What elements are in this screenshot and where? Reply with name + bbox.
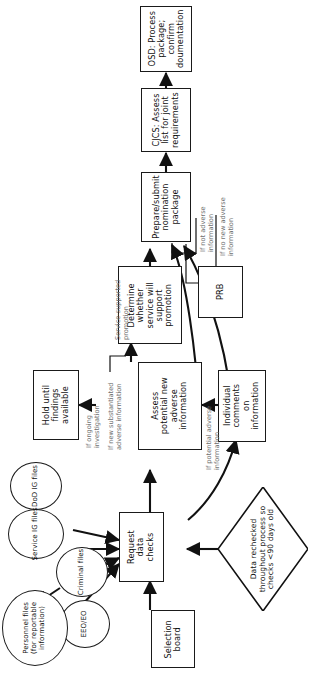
node-label: DoD IG files (32, 465, 40, 507)
node-osd-process-package[interactable]: OSD: Process package; confirm doumentati… (140, 6, 192, 72)
edge-label-if-ongoing-investigation: If ongoing investigation (86, 388, 101, 448)
edge-label-if-no-new-adverse: If no new adverse information (220, 172, 235, 256)
edge-label-if-new-substantiated: If new substantiated adverse information (108, 366, 123, 450)
node-label: Determine whether service will support p… (127, 274, 174, 336)
node-label: Service IG files (32, 507, 40, 560)
node-label: Data rechecked throughout process so che… (250, 504, 276, 594)
node-label: Individual comments on information (223, 382, 260, 430)
node-prb[interactable]: PRB (198, 266, 243, 318)
node-label: OSD: Process package; confirm doumentati… (147, 10, 184, 69)
node-individual-comments[interactable]: Individual comments on information (218, 370, 266, 442)
node-label: Assess potential new adverse information (151, 375, 188, 437)
node-label: Criminal files (78, 549, 86, 596)
node-criminal-files[interactable]: Criminal files (56, 547, 108, 597)
node-label: PRB (216, 284, 225, 301)
edge-label-service-supported: Service-supported promotion (115, 268, 130, 340)
node-label: Selection board (164, 618, 183, 660)
node-cjcs-assess-joint[interactable]: CJCS: Assess list for joint requirements (141, 88, 191, 152)
flowchart-canvas: OSD: Process package; confirm doumentati… (0, 0, 311, 677)
node-prepare-submit-nomination[interactable]: Prepare/submit nomination package (141, 172, 191, 242)
node-service-ig-files[interactable]: Service IG files (8, 509, 64, 559)
edge-label-if-not-adverse: If not adverse information (200, 176, 215, 252)
node-label: Request data checks (127, 526, 155, 569)
node-hold-until-findings[interactable]: Hold until findings available (33, 370, 79, 440)
edge-label-if-potential-adverse: If potential adverse information (206, 390, 221, 470)
node-data-rechecked-decision[interactable]: Data rechecked throughout process so che… (218, 487, 308, 611)
node-label: CJCS: Assess list for joint requirements (152, 92, 180, 148)
node-dod-ig-files[interactable]: DoD IG files (10, 462, 62, 510)
node-selection-board[interactable]: Selection board (151, 610, 195, 668)
node-personnel-files[interactable]: Personnel files (for reportable informat… (2, 590, 68, 666)
node-assess-potential-adverse[interactable]: Assess potential new adverse information (138, 362, 202, 450)
node-label: Prepare/submit nomination package (152, 175, 180, 238)
node-label: EEO/EO (81, 610, 89, 637)
node-label: Hold until findings available (42, 383, 70, 427)
node-request-data-checks[interactable]: Request data checks (119, 512, 164, 582)
node-label: Personnel files (for reportable informat… (23, 596, 47, 660)
